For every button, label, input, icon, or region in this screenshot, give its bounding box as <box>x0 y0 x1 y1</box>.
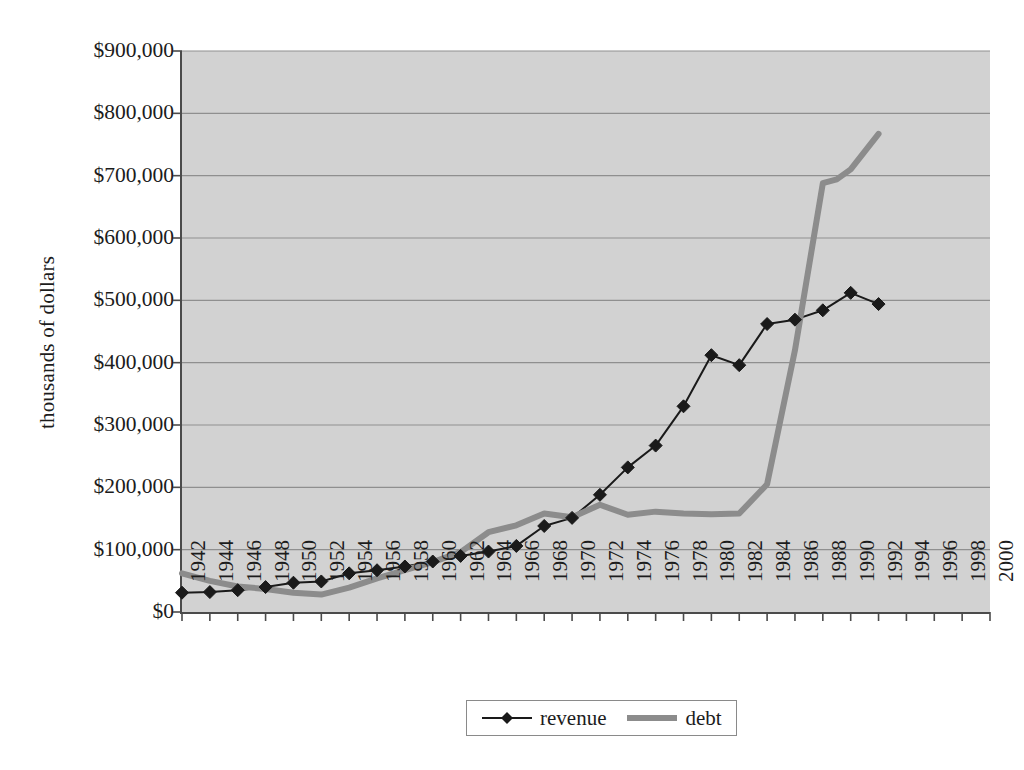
data-point-marker <box>705 349 718 362</box>
y-tick-marks <box>173 51 182 612</box>
legend-entry-debt[interactable]: debt <box>626 706 721 731</box>
x-tick-label: 1958 <box>411 540 432 630</box>
x-tick-label: 1978 <box>690 540 711 630</box>
x-tick-label: 1988 <box>829 540 850 630</box>
plot-area <box>180 51 990 614</box>
y-tick-label: $0 <box>34 601 174 623</box>
y-tick-label: $700,000 <box>34 165 174 187</box>
chart-legend: revenuedebt <box>466 700 737 736</box>
x-tick-label: 1948 <box>272 540 293 630</box>
y-tick-label: $800,000 <box>34 102 174 124</box>
x-tick-label: 1950 <box>299 540 320 630</box>
x-tick-label: 1960 <box>439 540 460 630</box>
x-tick-label: 1956 <box>383 540 404 630</box>
y-axis-tick-labels: $0$100,000$200,000$300,000$400,000$500,0… <box>28 0 174 770</box>
x-tick-label: 1968 <box>550 540 571 630</box>
data-point-marker <box>733 359 746 372</box>
data-point-marker <box>844 286 857 299</box>
x-tick-label: 1972 <box>606 540 627 630</box>
y-tick-label: $500,000 <box>34 289 174 311</box>
x-tick-label: 1952 <box>327 540 348 630</box>
x-tick-label: 1980 <box>717 540 738 630</box>
x-tick-label: 1946 <box>244 540 265 630</box>
plot-canvas <box>182 51 990 612</box>
legend-entry-revenue[interactable]: revenue <box>481 706 606 731</box>
data-point-marker <box>677 400 690 413</box>
x-tick-label: 1990 <box>857 540 878 630</box>
legend-label: revenue <box>540 706 606 731</box>
x-tick-label: 2000 <box>996 540 1017 630</box>
data-point-marker <box>176 586 189 599</box>
y-tick-label: $600,000 <box>34 227 174 249</box>
y-tick-label: $400,000 <box>34 352 174 374</box>
x-tick-label: 1942 <box>188 540 209 630</box>
y-tick-label: $200,000 <box>34 476 174 498</box>
x-tick-label: 1966 <box>522 540 543 630</box>
x-tick-label: 1970 <box>578 540 599 630</box>
x-tick-label: 1964 <box>494 540 515 630</box>
x-tick-label: 1976 <box>662 540 683 630</box>
x-tick-label: 1998 <box>968 540 989 630</box>
legend-swatch-debt-icon <box>626 711 678 725</box>
x-tick-label: 1982 <box>745 540 766 630</box>
x-tick-label: 1984 <box>773 540 794 630</box>
y-tick-label: $100,000 <box>34 539 174 561</box>
x-tick-label: 1954 <box>355 540 376 630</box>
y-tick-label: $300,000 <box>34 414 174 436</box>
data-point-marker <box>761 318 774 331</box>
x-tick-label: 1992 <box>885 540 906 630</box>
line-chart: thousands of dollars $0$100,000$200,000$… <box>0 0 1024 770</box>
x-tick-label: 1986 <box>801 540 822 630</box>
x-tick-label: 1994 <box>912 540 933 630</box>
series-line-debt <box>182 134 879 595</box>
data-point-marker <box>872 298 885 311</box>
x-tick-label: 1944 <box>216 540 237 630</box>
data-point-marker <box>538 519 551 532</box>
data-point-marker <box>816 304 829 317</box>
x-tick-label: 1996 <box>940 540 961 630</box>
x-tick-label: 1962 <box>467 540 488 630</box>
y-tick-label: $900,000 <box>34 40 174 62</box>
legend-swatch-revenue-icon <box>481 711 533 725</box>
x-tick-label: 1974 <box>634 540 655 630</box>
legend-label: debt <box>685 706 721 731</box>
